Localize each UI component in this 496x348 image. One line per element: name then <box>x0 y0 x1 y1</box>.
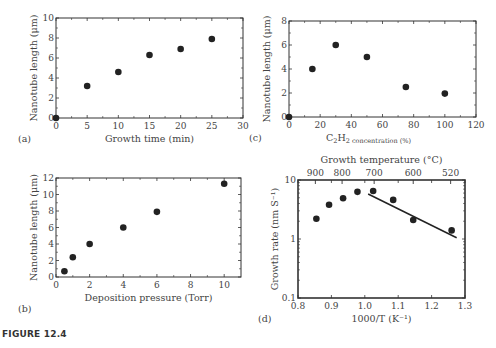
y-tick-label: 4 <box>281 64 287 74</box>
data-point <box>340 195 347 202</box>
top-tick-label: 600 <box>405 168 422 178</box>
y-axis-label: Growth rate (nm S⁻¹) <box>269 188 280 291</box>
plot-frame <box>56 178 241 277</box>
data-point <box>370 188 377 195</box>
data-point <box>154 209 161 216</box>
data-point <box>209 36 216 43</box>
panel-label: (d) <box>258 313 272 324</box>
x-tick-label: 6 <box>154 280 160 290</box>
y-tick-label: 1 <box>290 234 296 244</box>
figure-canvas: 0510152025300246810Growth time (min)Nano… <box>0 0 496 348</box>
y-tick-label: 0.1 <box>282 293 296 303</box>
x-tick-label: 0 <box>286 120 292 130</box>
y-tick-label: 2 <box>281 88 287 98</box>
x-tick-label: 30 <box>237 121 249 131</box>
top-tick-label: 700 <box>366 168 383 178</box>
x-tick-label: 20 <box>175 121 187 131</box>
plot-frame <box>298 180 465 298</box>
y-tick-label: 8 <box>48 206 54 216</box>
chart-panel-b: 0246810024681012Deposition pressure (Tor… <box>18 173 241 314</box>
y-tick-label: 10 <box>285 175 297 185</box>
y-axis-label: Nanotube length (μm) <box>261 16 272 123</box>
x-tick-label: 2 <box>87 280 93 290</box>
x-tick-label: 0 <box>53 121 59 131</box>
chart-panel-c: 02040608010012002468C2H2 concentration (… <box>249 16 485 145</box>
x-tick-label: 4 <box>120 280 126 290</box>
data-point <box>332 42 339 49</box>
y-tick-label: 2 <box>48 93 54 103</box>
x-tick-label: 1.0 <box>358 301 373 311</box>
data-point <box>221 180 228 187</box>
figure-caption: FIGURE 12.4 <box>2 329 67 339</box>
y-tick-label: 12 <box>43 173 54 183</box>
data-point <box>84 83 91 90</box>
x-tick-label: 10 <box>113 121 125 131</box>
panel-label: (a) <box>18 133 31 144</box>
x-tick-label: 5 <box>84 121 90 131</box>
y-tick-label: 4 <box>48 239 54 249</box>
x-tick-label: 1.2 <box>424 301 438 311</box>
y-tick-label: 6 <box>281 40 287 50</box>
data-point <box>177 46 184 53</box>
x-axis-label: Growth time (min) <box>105 133 194 144</box>
data-point <box>86 241 93 248</box>
y-tick-label: 4 <box>48 73 54 83</box>
y-tick-label: 6 <box>48 53 54 63</box>
x-tick-label: 60 <box>377 120 389 130</box>
data-point <box>70 254 77 261</box>
data-point <box>313 215 320 222</box>
chart-panel-a: 0510152025300246810Growth time (min)Nano… <box>18 13 249 144</box>
data-point <box>309 66 316 73</box>
x-tick-label: 0.9 <box>324 301 339 311</box>
plot-frame <box>289 21 476 117</box>
top-tick-label: 520 <box>442 168 459 178</box>
x-tick-label: 8 <box>188 280 194 290</box>
top-tick-label: 800 <box>333 168 350 178</box>
x-tick-label: 15 <box>144 121 156 131</box>
x-tick-label: 100 <box>436 120 453 130</box>
x-axis-label: C2H2 concentration (%) <box>326 132 411 145</box>
data-point <box>448 227 455 234</box>
x-tick-label: 10 <box>218 280 230 290</box>
data-point <box>390 197 397 204</box>
x-tick-label: 80 <box>408 120 420 130</box>
data-point <box>53 115 60 122</box>
data-point <box>61 268 68 275</box>
y-tick-label: 0 <box>48 272 54 282</box>
y-tick-label: 8 <box>48 33 54 43</box>
x-tick-label: 40 <box>346 120 358 130</box>
plot-frame <box>56 18 243 118</box>
panel-label: (b) <box>18 303 32 314</box>
y-tick-label: 10 <box>43 190 55 200</box>
y-axis-label: Nanotube length (μm) <box>28 15 39 122</box>
data-point <box>146 52 153 59</box>
top-tick-label: 900 <box>307 168 324 178</box>
panel-label: (c) <box>249 132 262 143</box>
data-point <box>364 54 371 61</box>
y-axis-label: Nanotube length (μm) <box>28 174 39 281</box>
data-point <box>403 84 410 91</box>
x-tick-label: 0 <box>53 280 59 290</box>
data-point <box>410 217 417 224</box>
y-tick-label: 10 <box>43 13 55 23</box>
data-point <box>115 69 122 76</box>
data-point <box>354 189 361 196</box>
x-axis-label: 1000/T (K⁻¹) <box>351 313 411 324</box>
y-tick-label: 8 <box>281 16 287 26</box>
fit-line <box>368 194 457 238</box>
x-tick-label: 20 <box>314 120 326 130</box>
data-point <box>326 201 333 208</box>
y-tick-label: 2 <box>48 256 54 266</box>
chart-panel-d: 0.80.91.01.11.21.30.1110900800700600520G… <box>258 154 472 324</box>
data-point <box>442 90 449 97</box>
x-tick-label: 1.3 <box>458 301 473 311</box>
x-tick-label: 25 <box>206 121 218 131</box>
x-axis-label: Deposition pressure (Torr) <box>85 292 213 303</box>
y-tick-label: 6 <box>48 223 54 233</box>
data-point <box>120 224 127 231</box>
x-tick-label: 120 <box>467 120 484 130</box>
x-tick-label: 1.1 <box>391 301 405 311</box>
top-axis-label: Growth temperature (°C) <box>321 154 443 165</box>
data-point <box>286 114 293 121</box>
